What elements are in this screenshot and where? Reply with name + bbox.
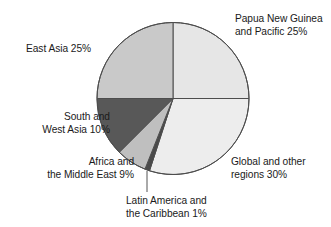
slice-label-papua-new-guinea-and-pacific: Papua New Guinea and Pacific 25% [235, 12, 323, 38]
slice-label-east-asia: East Asia 25% [26, 42, 91, 55]
pie-chart-figure: Papua New Guinea and Pacific 25% East As… [0, 0, 331, 227]
pie-slice-east-asia [97, 23, 173, 99]
slice-label-global-and-other-regions: Global and other regions 30% [231, 155, 306, 181]
slice-label-latin-america-and-the-caribbean: Latin America and the Caribbean 1% [126, 194, 207, 220]
slice-label-africa-and-the-middle-east: Africa and the Middle East 9% [6, 155, 134, 181]
slice-label-south-and-west-asia: South and West Asia 10% [6, 110, 110, 136]
